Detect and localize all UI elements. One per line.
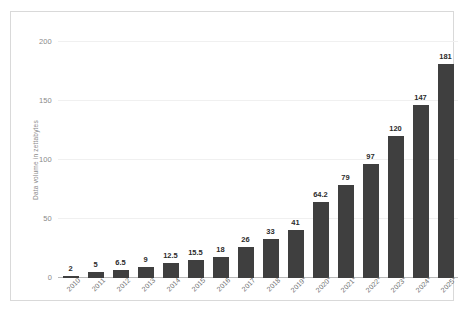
bar-slot: 147 [408, 42, 433, 278]
bar-slot: 5 [83, 42, 108, 278]
x-tick-label: 2010 [65, 276, 81, 292]
x-tick-label: 2018 [265, 276, 281, 292]
x-tick-label: 2012 [115, 276, 131, 292]
bar[interactable]: 26 [238, 247, 254, 278]
x-label-slot: 2024* [408, 280, 433, 315]
x-label-slot: 2019* [283, 280, 308, 315]
x-label-slot: 2016 [208, 280, 233, 315]
bar-value-label: 6.5 [115, 258, 125, 267]
bar[interactable]: 147 [413, 105, 429, 278]
plot-area: 200150100500 256.5912.515.51826334164.27… [58, 42, 458, 278]
x-label-slot: 2021* [333, 280, 358, 315]
chart-screenshot: Data volume in zettabytes 200150100500 2… [0, 0, 464, 315]
x-label-slot: 2023* [383, 280, 408, 315]
bar-value-label: 5 [93, 260, 97, 269]
bar-slot: 9 [133, 42, 158, 278]
bar[interactable]: 64.2 [313, 202, 329, 278]
bar-value-label: 79 [341, 173, 349, 182]
x-label-slot: 2014 [158, 280, 183, 315]
bar[interactable]: 97 [363, 164, 379, 278]
bar-value-label: 181 [439, 52, 452, 61]
y-tick-label: 50 [43, 214, 52, 223]
x-tick-label: 2020* [314, 275, 332, 293]
x-tick-label: 2019* [289, 275, 307, 293]
x-tick-label: 2021* [339, 275, 357, 293]
x-tick-label: 2011 [90, 277, 106, 293]
bar-value-label: 33 [266, 227, 274, 236]
x-label-slot: 2025* [433, 280, 458, 315]
x-tick-label: 2013 [140, 276, 156, 292]
x-label-slot: 2013 [133, 280, 158, 315]
bar-value-label: 120 [389, 124, 402, 133]
bar-slot: 33 [258, 42, 283, 278]
figure-frame: Data volume in zettabytes 200150100500 2… [10, 11, 454, 301]
x-label-slot: 2018 [258, 280, 283, 315]
x-tick-label: 2016 [215, 276, 231, 292]
bar-slot: 181 [433, 42, 458, 278]
bar-slot: 18 [208, 42, 233, 278]
x-label-slot: 2017 [233, 280, 258, 315]
y-tick-label: 100 [39, 155, 52, 164]
x-tick-label: 2023* [389, 275, 407, 293]
bar-value-label: 97 [366, 152, 374, 161]
x-axis-labels: 2010201120122013201420152016201720182019… [58, 280, 458, 315]
bar[interactable]: 41 [288, 230, 304, 278]
bar[interactable]: 33 [263, 239, 279, 278]
bar[interactable]: 18 [213, 257, 229, 278]
x-tick-label: 2024* [414, 275, 432, 293]
bar-value-label: 9 [143, 255, 147, 264]
bar-slot: 15.5 [183, 42, 208, 278]
bar[interactable]: 120 [388, 136, 404, 278]
x-label-slot: 2022* [358, 280, 383, 315]
bar-value-label: 147 [414, 93, 427, 102]
bar-slot: 79 [333, 42, 358, 278]
bar-value-label: 12.5 [163, 251, 178, 260]
bar-slot: 2 [58, 42, 83, 278]
bar-slot: 12.5 [158, 42, 183, 278]
bars-layer: 256.5912.515.51826334164.27997120147181 [58, 42, 458, 278]
bar-slot: 120 [383, 42, 408, 278]
bar-value-label: 18 [216, 245, 224, 254]
x-label-slot: 2012 [108, 280, 133, 315]
bar-slot: 97 [358, 42, 383, 278]
y-tick-label: 0 [48, 273, 52, 282]
x-label-slot: 2020* [308, 280, 333, 315]
bar-slot: 64.2 [308, 42, 333, 278]
bar-value-label: 41 [291, 218, 299, 227]
x-tick-label: 2022* [364, 275, 382, 293]
x-label-slot: 2015 [183, 280, 208, 315]
x-tick-label: 2014 [165, 276, 181, 292]
bar-value-label: 15.5 [188, 248, 203, 257]
bar-slot: 26 [233, 42, 258, 278]
y-axis-title: Data volume in zettabytes [32, 120, 39, 200]
x-label-slot: 2011 [83, 280, 108, 315]
bar[interactable]: 181 [438, 64, 454, 278]
x-tick-label: 2017 [240, 276, 256, 292]
bar[interactable]: 79 [338, 185, 354, 278]
y-tick-label: 150 [39, 96, 52, 105]
bar-value-label: 64.2 [313, 190, 328, 199]
bar-slot: 6.5 [108, 42, 133, 278]
bar-value-label: 26 [241, 235, 249, 244]
x-tick-label: 2025* [439, 275, 457, 293]
y-tick-label: 200 [39, 37, 52, 46]
bar-value-label: 2 [68, 264, 72, 273]
x-label-slot: 2010 [58, 280, 83, 315]
x-tick-label: 2015 [190, 276, 206, 292]
bar-slot: 41 [283, 42, 308, 278]
